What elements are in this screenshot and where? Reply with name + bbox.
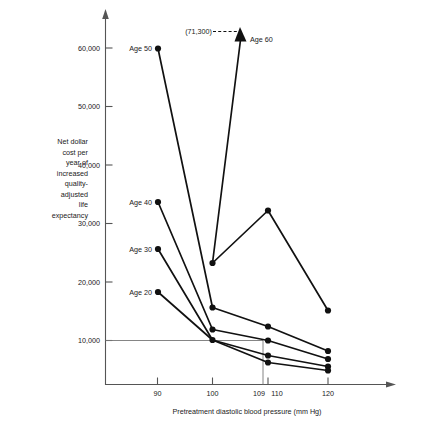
series-age-60-point-100 — [209, 260, 215, 266]
x-axis-arrowhead — [386, 381, 396, 387]
x-axis-ticks: 90 100 109 110 120 — [154, 378, 335, 399]
y-axis-arrowhead — [102, 9, 109, 19]
y-tick-label-30000: 30,000 — [78, 219, 100, 228]
series-age-20-point-120 — [325, 367, 331, 373]
series-label-age-50: Age 50 — [129, 44, 152, 53]
series-age-40-point-120 — [325, 356, 331, 362]
series-age-50-point-100 — [209, 304, 215, 310]
x-tick-label-90: 90 — [154, 389, 162, 398]
series-age-60-offscale-arrowhead — [235, 27, 247, 42]
series-age-30-point-110 — [265, 352, 271, 358]
series-label-age-40: Age 40 — [129, 198, 152, 207]
series-label-age-60: Age 60 — [250, 35, 273, 44]
offscale-value-label: (71,300) — [185, 27, 212, 36]
series-age-40-point-90 — [155, 199, 161, 205]
series-age-50-point-90 — [155, 45, 161, 51]
y-axis-title-line-6: life — [79, 200, 88, 209]
x-tick-label-100: 100 — [207, 389, 219, 398]
series-age-40-line — [158, 202, 328, 359]
series-age-20-point-90 — [155, 289, 161, 295]
series-label-age-20: Age 20 — [129, 288, 152, 297]
y-axis-title-line-3: increased — [57, 169, 88, 178]
y-axis-title-line-4: quality- — [65, 179, 89, 188]
x-tick-label-110: 110 — [271, 389, 282, 398]
series-age-40: Age 40 — [129, 198, 331, 362]
y-axis-title-line-7: expectancy — [52, 211, 89, 220]
y-axis-title-line-5: adjusted — [61, 190, 88, 199]
series-age-60-point-120 — [325, 307, 331, 313]
y-axis-title: Net dollar cost per year of increased qu… — [52, 137, 89, 220]
series-age-60: (71,300) Age 60 — [185, 27, 331, 314]
x-axis-title: Pretreatment diastolic blood pressure (m… — [173, 407, 322, 416]
series-age-50-point-120 — [325, 348, 331, 354]
y-tick-label-20000: 20,000 — [78, 278, 100, 287]
series-age-20-point-110 — [265, 359, 271, 365]
y-tick-label-60000: 60,000 — [78, 44, 100, 53]
series-age-20-line — [158, 292, 328, 371]
series-age-40-point-100 — [209, 326, 215, 332]
y-tick-label-10000: 10,000 — [78, 336, 100, 345]
series-age-50-point-110 — [265, 323, 271, 329]
y-tick-label-50000: 50,000 — [78, 102, 100, 111]
series-age-50: Age 50 — [129, 44, 331, 354]
x-tick-label-120: 120 — [322, 389, 334, 398]
line-chart: 60,000 50,000 40,000 30,000 20,000 10,00… — [0, 0, 421, 442]
x-tick-label-109: 109 — [253, 389, 265, 398]
y-axis-title-line-1: cost per — [62, 148, 88, 157]
series-age-60-point-110 — [265, 207, 271, 213]
y-axis-title-line-2: year of — [66, 158, 88, 167]
series-label-age-30: Age 30 — [129, 245, 152, 254]
series-age-60-line — [213, 36, 329, 311]
y-axis-title-line-0: Net dollar — [57, 137, 88, 146]
chart-container: 60,000 50,000 40,000 30,000 20,000 10,00… — [0, 0, 421, 442]
series-age-40-point-110 — [265, 337, 271, 343]
series-age-50-line — [158, 49, 328, 352]
series-age-30-point-90 — [155, 246, 161, 252]
